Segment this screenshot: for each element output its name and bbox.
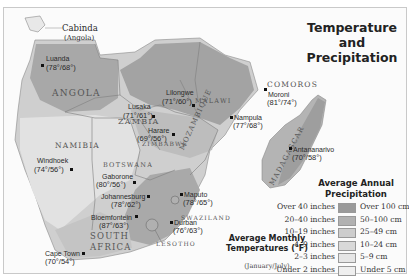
country-label-namibia: NAMIBIA — [55, 141, 100, 150]
country-label-africa: AFRICA — [90, 242, 132, 252]
map-title: Temperature and Precipitation — [300, 20, 404, 65]
legend-cm: Over 100 cm — [360, 202, 409, 211]
legend-swatch — [338, 266, 356, 276]
city-dot-lilongwe — [192, 104, 195, 107]
legend-row: Over 40 inches Over 100 cm — [282, 201, 407, 214]
cabinda-sublabel: (Angola) — [64, 34, 94, 42]
legend-cm: 50–100 cm — [360, 215, 402, 224]
city-temp-luanda: (78°/68°) — [46, 64, 76, 72]
city-temp-harare: (69°/56°) — [137, 135, 167, 143]
legend-swatch — [338, 253, 356, 263]
city-dot-johannesburg — [147, 195, 150, 198]
temperature-note-sub: (January/July) — [225, 262, 309, 270]
legend-row: 20–40 inches 50–100 cm — [282, 214, 407, 227]
legend-inches: Over 40 inches — [277, 202, 335, 211]
country-label-angola: ANGOLA — [52, 88, 101, 98]
city-dot-durban — [170, 221, 173, 224]
city-name-luanda: Luanda — [46, 55, 69, 63]
legend-inches: 20–40 inches — [285, 215, 335, 224]
temperature-note-line1: Average Monthly — [225, 234, 309, 244]
city-dot-moroni — [264, 88, 267, 91]
city-name-lilongwe: Lilongwe — [166, 89, 194, 97]
city-dot-antananarivo — [289, 147, 292, 150]
city-dot-luanda — [41, 64, 44, 67]
city-temp-cape-town: (70°/54°) — [45, 258, 75, 266]
city-temp-johannesburg: (78°/62°) — [111, 201, 141, 209]
legend-swatch — [338, 203, 356, 213]
swaziland-outline — [171, 196, 179, 204]
city-name-lusaka: Lusaka — [128, 103, 151, 111]
city-temp-gaborone: (80°/56°) — [96, 181, 126, 189]
city-temp-lusaka: (71°/61°) — [123, 112, 153, 120]
city-name-windhoek: Windhoek — [37, 157, 68, 165]
legend-title-line1: Average Annual — [308, 178, 404, 189]
country-label-lesotho: LESOTHO — [156, 240, 196, 247]
country-label-comoros: COMOROS — [267, 80, 318, 89]
city-temp-nampula: (77°/68°) — [233, 122, 263, 130]
legend-cm: 25–49 cm — [360, 227, 397, 236]
country-label-botswana: BOTSWANA — [103, 161, 153, 169]
city-dot-gaborone — [133, 181, 136, 184]
legend-title: Average Annual Precipitation — [308, 178, 404, 200]
temperature-note-title: Average Monthly Temperatures (°F) — [225, 234, 309, 254]
cabinda-landmass — [25, 16, 45, 32]
country-label-south: SOUTH — [90, 231, 129, 241]
city-dot-harare — [172, 133, 175, 136]
legend-cm: 5–9 cm — [360, 252, 387, 261]
city-temp-bloemfontein: (87°/63°) — [99, 222, 129, 230]
city-temp-antananarivo: (70°/58°) — [292, 154, 322, 162]
legend-swatch — [338, 216, 356, 226]
map-title-line2: Precipitation — [300, 50, 404, 65]
lesotho-outline — [146, 219, 158, 231]
city-temp-lilongwe: (71°/60°) — [162, 98, 192, 106]
legend-swatch — [338, 241, 356, 251]
city-dot-windhoek — [70, 168, 73, 171]
city-dot-nampula — [230, 116, 233, 119]
legend-cm: Under 5 cm — [360, 265, 405, 274]
city-dot-cape-town — [82, 252, 85, 255]
map-title-line1: Temperature and — [300, 20, 404, 50]
city-temp-durban: (76°/63°) — [173, 227, 203, 235]
temperature-note-line2: Temperatures (°F) — [225, 244, 309, 254]
legend-title-line2: Precipitation — [308, 189, 404, 200]
cabinda-label: Cabinda — [62, 24, 98, 32]
city-temp-maputo: (78°/65°) — [183, 199, 213, 207]
city-temp-moroni: (81°/74°) — [267, 99, 297, 107]
city-temp-windhoek: (74°/56°) — [34, 166, 64, 174]
legend-swatch — [338, 228, 356, 238]
city-dot-bloemfontein — [135, 215, 138, 218]
city-dot-maputo — [180, 193, 183, 196]
legend-cm: 10–24 cm — [360, 240, 397, 249]
